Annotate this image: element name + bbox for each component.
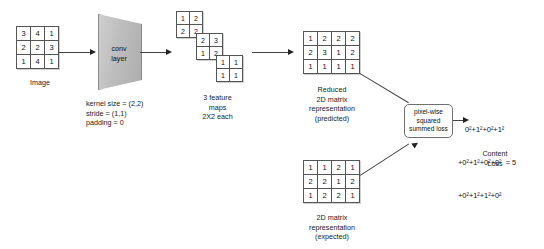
- conv-label-line1: conv: [111, 44, 126, 53]
- matrix-cell: 2: [318, 32, 332, 46]
- table-row: 1 4 1: [17, 55, 59, 69]
- matrix-cell: 1: [217, 56, 230, 69]
- matrix-cell: 1: [197, 47, 210, 60]
- matrix-cell: 2: [197, 34, 210, 47]
- matrix-cell: 1: [332, 60, 346, 74]
- input-matrix-table: 3 4 1 2 2 3 1 4 1: [16, 26, 59, 69]
- expected-matrix: 1 1 2 1 2 2 1 2 1 2 2 1: [303, 160, 360, 203]
- matrix-cell: 2: [17, 41, 31, 55]
- matrix-cell: 1: [346, 161, 360, 175]
- matrix-cell: 2: [190, 12, 203, 25]
- table-row: 1 1: [217, 56, 243, 69]
- matrix-cell: 2: [346, 46, 360, 60]
- matrix-cell: 1: [304, 189, 318, 203]
- matrix-cell: 1: [217, 69, 230, 82]
- matrix-cell: 1: [318, 60, 332, 74]
- connector-conv-to-featuremaps: [140, 52, 169, 53]
- conv-label-line2: layer: [111, 54, 127, 63]
- connector-image-to-conv: [58, 52, 92, 53]
- table-row: 1 1 1 1: [304, 60, 360, 74]
- matrix-cell: 1: [45, 55, 59, 69]
- input-image-label: Image: [10, 78, 70, 88]
- matrix-cell: 2: [332, 189, 346, 203]
- matrix-cell: 1: [346, 60, 360, 74]
- table-row: 3 4 1: [17, 27, 59, 41]
- diagram-canvas: 3 4 1 2 2 3 1 4 1 Image convlayer kernel…: [0, 0, 544, 249]
- matrix-cell: 1: [304, 60, 318, 74]
- matrix-cell: 2: [318, 189, 332, 203]
- table-row: 2 3: [197, 34, 223, 47]
- pixelwise-loss-box: pixel-wise squared summed loss: [404, 104, 453, 138]
- matrix-cell: 1: [304, 32, 318, 46]
- table-row: 1 1: [217, 69, 243, 82]
- matrix-cell: 2: [304, 46, 318, 60]
- connector-featuremaps-to-predicted: [252, 52, 292, 53]
- matrix-cell: 1: [332, 175, 346, 189]
- content-loss-label: Content Loss: [464, 149, 526, 168]
- matrix-cell: 2: [332, 161, 346, 175]
- input-image-matrix: 3 4 1 2 2 3 1 4 1: [16, 26, 59, 69]
- arrow-featuremaps-to-predicted: [288, 49, 294, 55]
- expected-matrix-table: 1 1 2 1 2 2 1 2 1 2 2 1: [303, 160, 360, 203]
- table-row: 1 2 2 2: [304, 32, 360, 46]
- matrix-cell: 2: [346, 32, 360, 46]
- predicted-matrix: 1 2 2 2 2 3 1 2 1 1 1 1: [303, 31, 360, 74]
- arrow-image-to-conv: [90, 49, 96, 55]
- matrix-cell: 2: [304, 175, 318, 189]
- matrix-cell: 2: [332, 32, 346, 46]
- matrix-cell: 4: [31, 55, 45, 69]
- matrix-cell: 1: [346, 189, 360, 203]
- table-row: 1 2 2 1: [304, 189, 360, 203]
- expected-caption: 2D matrix representation (expected): [287, 213, 377, 242]
- arrow-conv-to-featuremaps: [166, 49, 172, 55]
- matrix-cell: 1: [304, 161, 318, 175]
- matrix-cell: 3: [45, 41, 59, 55]
- table-row: 2 2 3: [17, 41, 59, 55]
- matrix-cell: 1: [230, 56, 243, 69]
- matrix-cell: 1: [17, 55, 31, 69]
- conv-layer-label: convlayer: [98, 44, 140, 63]
- table-row: 2 2 1 2: [304, 175, 360, 189]
- matrix-cell: 3: [318, 46, 332, 60]
- formula-line-3: +0²+1²+1²+0²: [458, 190, 516, 201]
- table-row: 2 3 1 2: [304, 46, 360, 60]
- feature-map-3: 1 1 1 1: [216, 55, 243, 82]
- matrix-cell: 2: [31, 41, 45, 55]
- arrow-expected-to-loss: [411, 140, 419, 148]
- matrix-cell: 1: [45, 27, 59, 41]
- predicted-matrix-table: 1 2 2 2 2 3 1 2 1 1 1 1: [303, 31, 360, 74]
- matrix-cell: 3: [210, 34, 223, 47]
- table-row: 1 1 2 1: [304, 161, 360, 175]
- matrix-cell: 1: [230, 69, 243, 82]
- feature-map-3-table: 1 1 1 1: [216, 55, 243, 82]
- matrix-cell: 2: [177, 25, 190, 38]
- matrix-cell: 3: [17, 27, 31, 41]
- matrix-cell: 1: [177, 12, 190, 25]
- connector-expected-to-loss: [360, 143, 409, 175]
- matrix-cell: 4: [31, 27, 45, 41]
- matrix-cell: 2: [346, 175, 360, 189]
- matrix-cell: 1: [332, 46, 346, 60]
- formula-line-1: 0²+1²+0²+1²: [458, 124, 516, 135]
- table-row: 1 2: [177, 12, 203, 25]
- matrix-cell: 1: [318, 161, 332, 175]
- predicted-caption: Reduced 2D matrix representation (predic…: [287, 85, 377, 123]
- feature-maps-caption: 3 feature maps 2X2 each: [175, 93, 260, 122]
- matrix-cell: 2: [318, 175, 332, 189]
